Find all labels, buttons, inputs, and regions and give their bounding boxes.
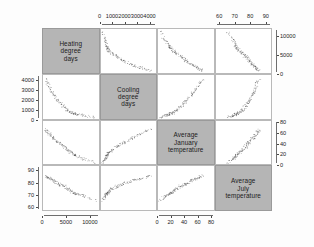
diagonal-panel-cdd: Coolingdegreedays <box>100 74 158 120</box>
y-tick-hdd-2 <box>277 36 279 37</box>
y-tick-jul_temp-1 <box>36 195 38 196</box>
y-tick-label-cdd-2: 2000 <box>0 97 34 103</box>
diagonal-panel-hdd: Heatingdegreedays <box>42 28 100 74</box>
y-tick-label-jan_temp-0: 0 <box>280 162 283 168</box>
x-tick-label-jan_temp-3: 60 <box>194 219 200 225</box>
x-tick-label-cdd-1: 1000 <box>106 13 118 19</box>
scatter-panel-hdd-vs-jan_temp <box>42 120 100 166</box>
scatter-panel-jul_temp-vs-hdd <box>215 28 273 74</box>
y-tick-hdd-1 <box>277 55 279 56</box>
scatter-points <box>216 29 272 73</box>
y-tick-cdd-4 <box>36 80 38 81</box>
x-tick-jan_temp-0 <box>157 216 158 218</box>
x-tick-label-cdd-3: 3000 <box>131 13 143 19</box>
scatter-points <box>101 166 157 210</box>
x-tick-label-jan_temp-2: 40 <box>181 219 187 225</box>
scatter-panel-jul_temp-vs-cdd <box>215 74 273 120</box>
y-tick-cdd-0 <box>36 120 38 121</box>
x-axis-line-jul_temp <box>217 24 271 25</box>
x-tick-hdd-1 <box>66 216 67 218</box>
y-tick-label-hdd-2: 10000 <box>280 33 296 39</box>
x-tick-cdd-4 <box>150 22 151 24</box>
y-tick-jul_temp-2 <box>36 183 38 184</box>
y-tick-label-jan_temp-4: 80 <box>280 119 286 125</box>
x-tick-jan_temp-2 <box>184 216 185 218</box>
diagonal-panel-label: AverageJanuarytemperature <box>158 131 214 153</box>
y-tick-jan_temp-3 <box>277 133 279 134</box>
y-tick-label-cdd-4: 4000 <box>0 77 34 83</box>
scatterplot-matrix: HeatingdegreedaysCoolingdegreedaysAverag… <box>42 28 272 211</box>
scatter-panel-cdd-vs-jul_temp <box>100 165 158 211</box>
x-tick-cdd-0 <box>100 22 101 24</box>
y-tick-label-hdd-1: 5000 <box>280 52 292 58</box>
scatter-points <box>43 166 99 210</box>
x-tick-label-jan_temp-0: 0 <box>155 219 158 225</box>
y-tick-label-hdd-0: 0 <box>280 71 283 77</box>
diagonal-panel-label: Coolingdegreedays <box>101 86 157 108</box>
x-tick-jul_temp-2 <box>250 22 251 24</box>
scatter-panel-cdd-vs-hdd <box>100 28 158 74</box>
x-tick-cdd-1 <box>112 22 113 24</box>
y-tick-label-jul_temp-1: 70 <box>0 192 34 198</box>
scatter-panel-hdd-vs-jul_temp <box>42 165 100 211</box>
x-tick-label-hdd-1: 5000 <box>60 219 72 225</box>
y-tick-jul_temp-0 <box>36 207 38 208</box>
scatter-panel-jan_temp-vs-hdd <box>157 28 215 74</box>
y-tick-label-jul_temp-0: 60 <box>0 204 34 210</box>
y-tick-jul_temp-3 <box>36 170 38 171</box>
x-tick-label-cdd-4: 4000 <box>143 13 155 19</box>
x-tick-hdd-2 <box>90 216 91 218</box>
scatter-panel-jul_temp-vs-jan_temp <box>215 120 273 166</box>
y-tick-label-jan_temp-3: 60 <box>280 130 286 136</box>
y-tick-jan_temp-0 <box>277 165 279 166</box>
y-tick-cdd-3 <box>36 90 38 91</box>
y-tick-label-jul_temp-3: 90 <box>0 167 34 173</box>
scatter-panel-hdd-vs-cdd <box>42 74 100 120</box>
y-tick-jan_temp-1 <box>277 154 279 155</box>
y-tick-cdd-2 <box>36 100 38 101</box>
y-tick-label-cdd-3: 3000 <box>0 87 34 93</box>
y-axis-line-jul_temp <box>38 167 39 209</box>
y-tick-label-jan_temp-1: 20 <box>280 151 286 157</box>
scatter-points <box>43 121 99 165</box>
y-axis-line-cdd <box>38 76 39 118</box>
x-tick-jul_temp-1 <box>235 22 236 24</box>
y-tick-label-cdd-0: 0 <box>0 117 34 123</box>
scatter-points <box>216 121 272 165</box>
y-axis-line-jan_temp <box>276 122 277 164</box>
x-tick-label-jul_temp-1: 70 <box>232 13 238 19</box>
x-tick-jan_temp-1 <box>171 216 172 218</box>
y-tick-hdd-0 <box>277 74 279 75</box>
x-tick-label-cdd-2: 2000 <box>118 13 130 19</box>
scatter-panel-jan_temp-vs-jul_temp <box>157 165 215 211</box>
scatter-points <box>158 75 214 119</box>
y-tick-label-jan_temp-2: 40 <box>280 141 286 147</box>
x-tick-label-jul_temp-3: 90 <box>263 13 269 19</box>
x-tick-label-cdd-0: 0 <box>98 13 101 19</box>
x-tick-cdd-3 <box>137 22 138 24</box>
x-tick-jul_temp-3 <box>266 22 267 24</box>
x-tick-label-jul_temp-0: 60 <box>216 13 222 19</box>
scatter-points <box>158 166 214 210</box>
x-tick-jan_temp-4 <box>211 216 212 218</box>
x-tick-jan_temp-3 <box>198 216 199 218</box>
scatter-panel-cdd-vs-jan_temp <box>100 120 158 166</box>
x-tick-label-jan_temp-4: 80 <box>208 219 214 225</box>
scatter-panel-jan_temp-vs-cdd <box>157 74 215 120</box>
y-tick-jan_temp-4 <box>277 122 279 123</box>
scatter-points <box>43 75 99 119</box>
x-tick-label-jul_temp-2: 80 <box>247 13 253 19</box>
x-tick-label-hdd-2: 10000 <box>82 219 98 225</box>
y-tick-label-jul_temp-2: 80 <box>0 180 34 186</box>
x-tick-label-hdd-0: 0 <box>40 219 43 225</box>
x-axis-line-jan_temp <box>159 215 213 216</box>
y-tick-label-cdd-1: 1000 <box>0 107 34 113</box>
diagonal-panel-jan_temp: AverageJanuarytemperature <box>157 120 215 166</box>
x-tick-label-jan_temp-1: 20 <box>167 219 173 225</box>
y-tick-jan_temp-2 <box>277 144 279 145</box>
diagonal-panel-label: Heatingdegreedays <box>43 40 99 62</box>
splom-figure: HeatingdegreedaysCoolingdegreedaysAverag… <box>0 0 314 247</box>
y-tick-cdd-1 <box>36 110 38 111</box>
scatter-points <box>101 121 157 165</box>
x-tick-hdd-0 <box>42 216 43 218</box>
